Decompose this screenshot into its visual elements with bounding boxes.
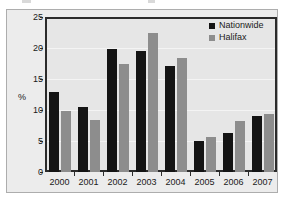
x-axis-tick-label: 2002 (103, 176, 132, 190)
y-axis-tick-mark (40, 172, 43, 173)
x-axis-labels: 20002001200220032004200520062007 (45, 176, 277, 190)
y-axis-title: % (18, 93, 26, 102)
chart-screenshot: 0510152025 % 200020012002200320042005200… (0, 0, 284, 199)
legend-item-nationwide: Nationwide (209, 21, 264, 30)
x-axis-tick-label: 2006 (219, 176, 248, 190)
y-axis-tick-mark (40, 48, 43, 49)
bar-halifax-2003 (148, 33, 158, 173)
bar-halifax-2000 (61, 111, 71, 172)
bar-nationwide-2001 (78, 107, 88, 172)
bar-group (45, 17, 74, 172)
bar-group (161, 17, 190, 172)
legend-swatch-nationwide-icon (209, 23, 215, 29)
y-axis-tick-mark (40, 141, 43, 142)
bar-halifax-2001 (90, 120, 100, 172)
bar-nationwide-2005 (194, 141, 204, 172)
page-edge-artifact-right (148, 0, 155, 3)
bar-nationwide-2000 (49, 92, 59, 172)
y-axis-tick-mark (40, 79, 43, 80)
bar-halifax-2007 (264, 114, 274, 172)
x-axis-tick-label: 2007 (248, 176, 277, 190)
bar-group (132, 17, 161, 172)
bar-halifax-2006 (235, 121, 245, 172)
bar-halifax-2004 (177, 58, 187, 172)
y-axis-tick-mark (40, 110, 43, 111)
bar-nationwide-2004 (165, 66, 175, 172)
x-axis-tick-label: 2005 (190, 176, 219, 190)
legend-swatch-halifax-icon (209, 35, 215, 41)
bar-group (103, 17, 132, 172)
y-axis-tick-mark (40, 17, 43, 18)
bar-nationwide-2002 (107, 49, 117, 172)
legend-item-halifax: Halifax (209, 33, 264, 42)
bar-group (74, 17, 103, 172)
bar-nationwide-2003 (136, 51, 146, 172)
x-axis-tick-label: 2003 (132, 176, 161, 190)
x-axis-tick-label: 2000 (45, 176, 74, 190)
bar-halifax-2002 (119, 64, 129, 172)
x-axis-tick-label: 2001 (74, 176, 103, 190)
bar-nationwide-2007 (252, 116, 262, 172)
legend-label-halifax: Halifax (219, 33, 247, 42)
x-axis-tick-label: 2004 (161, 176, 190, 190)
legend-label-nationwide: Nationwide (219, 21, 264, 30)
bar-nationwide-2006 (223, 133, 233, 172)
bar-halifax-2005 (206, 137, 216, 172)
chart-legend: Nationwide Halifax (209, 21, 264, 42)
